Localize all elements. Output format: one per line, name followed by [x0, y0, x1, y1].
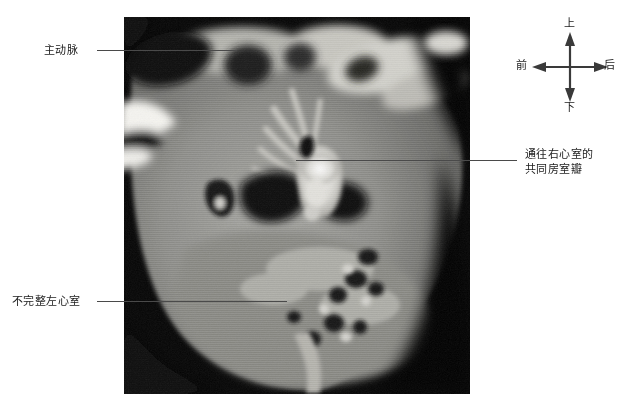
leader-line-common-av-valve — [296, 160, 517, 161]
label-common-av-valve-line1: 通往右心室的 — [525, 147, 593, 162]
label-common-av-valve-line2: 共同房室瓣 — [525, 162, 593, 177]
orientation-compass: 上 下 前 后 — [516, 18, 616, 114]
label-aorta: 主动脉 — [44, 43, 78, 58]
leader-line-incomplete-left-ventricle — [97, 301, 287, 302]
specimen-rendering — [124, 17, 470, 394]
leader-line-aorta — [97, 50, 237, 51]
label-incomplete-left-ventricle: 不完整左心室 — [12, 294, 80, 309]
compass-label-front: 前 — [516, 60, 527, 72]
compass-label-back: 后 — [604, 60, 615, 72]
figure-root: 主动脉 不完整左心室 通往右心室的 共同房室瓣 上 下 前 — [0, 0, 621, 408]
specimen-image — [124, 17, 470, 394]
label-common-av-valve: 通往右心室的 共同房室瓣 — [525, 147, 593, 177]
compass-arrows-icon — [516, 18, 616, 114]
compass-label-up: 上 — [564, 18, 575, 30]
compass-label-down: 下 — [564, 102, 575, 114]
